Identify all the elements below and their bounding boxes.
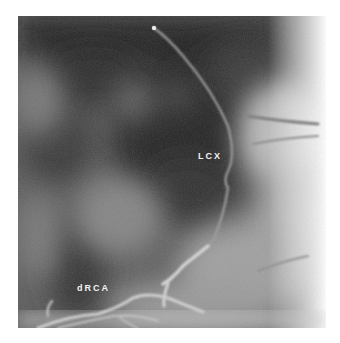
angiogram-graphic [18,16,326,328]
lcx-label: LCX [198,151,222,161]
drca-label: dRCA [77,283,110,293]
angiogram-image [18,16,326,328]
